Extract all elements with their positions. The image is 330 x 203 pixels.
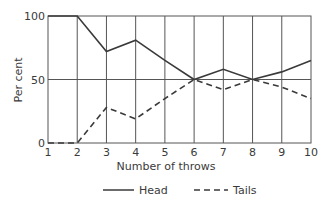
y-tick-label: 50 xyxy=(31,74,45,87)
legend-head-label: Head xyxy=(139,184,168,197)
x-axis-ticks: 12345678910 xyxy=(45,146,319,159)
x-tick-label: 8 xyxy=(249,146,256,159)
x-tick-label: 9 xyxy=(278,146,285,159)
x-tick-label: 7 xyxy=(220,146,227,159)
x-axis-label: Number of throws xyxy=(117,160,216,173)
x-tick-label: 5 xyxy=(161,146,168,159)
grid-lines xyxy=(48,16,311,143)
y-tick-label: 100 xyxy=(24,10,45,23)
x-tick-label: 10 xyxy=(304,146,318,159)
x-tick-label: 6 xyxy=(191,146,198,159)
legend: Head Tails xyxy=(103,184,257,197)
x-tick-label: 2 xyxy=(74,146,81,159)
legend-tails-label: Tails xyxy=(232,184,257,197)
y-axis-ticks: 050100 xyxy=(24,10,45,150)
series-tails-line xyxy=(48,80,311,144)
x-tick-label: 1 xyxy=(45,146,52,159)
series-head-line xyxy=(48,16,311,80)
x-tick-label: 4 xyxy=(132,146,139,159)
line-chart: 050100 12345678910 Per cent Number of th… xyxy=(0,0,330,203)
x-tick-label: 3 xyxy=(103,146,110,159)
y-axis-label: Per cent xyxy=(12,57,25,103)
